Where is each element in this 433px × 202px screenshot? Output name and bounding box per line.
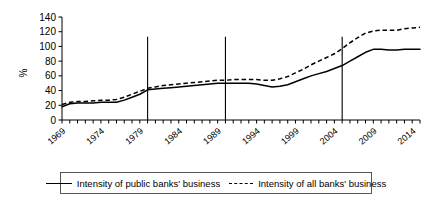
x-tick-label: 1969 [46,126,68,147]
legend-swatch-solid-icon [46,183,72,184]
chart-figure: % 14012010080604020019691974197919841989… [0,0,433,202]
y-tick-label: 40 [45,85,57,96]
plot-area: % 14012010080604020019691974197919841989… [0,0,433,166]
x-tick-label: 2009 [357,126,379,147]
line-chart-svg: 1401201008060402001969197419791984198919… [0,0,433,166]
x-tick-label: 1994 [240,126,262,147]
x-tick-label: 1989 [201,126,223,147]
x-tick-label: 1974 [84,126,106,147]
y-tick-label: 80 [45,56,57,67]
y-tick-label: 0 [50,115,56,126]
legend-label-all: Intensity of all banks' business [258,178,386,189]
y-tick-label: 100 [39,41,56,52]
series-line-all-banks [62,27,420,104]
x-tick-label: 1999 [279,126,301,147]
y-tick-label: 60 [45,70,57,81]
x-tick-label: 2014 [396,126,418,147]
legend-item-all: Intensity of all banks' business [229,178,386,189]
x-tick-label: 2004 [318,126,340,147]
x-tick-label: 1984 [162,126,184,147]
legend-label-public: Intensity of public banks' business [77,178,220,189]
chart-legend: Intensity of public banks' business Inte… [60,172,372,194]
y-tick-label: 140 [39,12,56,23]
y-tick-label: 120 [39,26,56,37]
legend-swatch-dashed-icon [229,183,253,184]
x-tick-label: 1979 [123,126,145,147]
series-line-public-banks [62,49,420,106]
legend-item-public: Intensity of public banks' business [46,178,220,189]
y-tick-label: 20 [45,100,57,111]
y-axis-title: % [19,63,29,83]
